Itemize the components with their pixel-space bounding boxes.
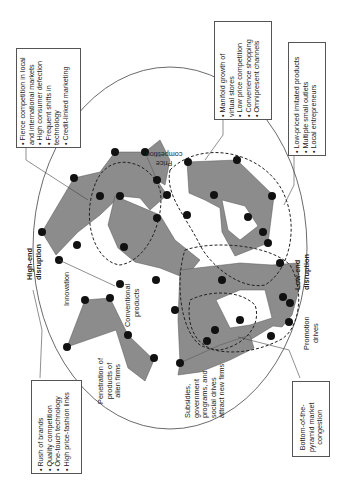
- label-promotion-drives: Promotion drives: [303, 316, 320, 350]
- callout-box-bottom-right: Bottom-of-the- pyramid market congestion: [292, 381, 330, 457]
- shaded-clusters: [42, 140, 300, 381]
- callout-box-top-right: • Low-priced imitated products • Multipl…: [288, 42, 326, 156]
- box-line: • Omnipresent channels: [253, 39, 262, 117]
- label-price-competition: Price competition: [144, 150, 184, 167]
- label-penetration-alien-firms: Penetration of products of alien firms: [97, 358, 123, 404]
- label-line: attract new firms: [218, 364, 227, 418]
- label-line: drives: [312, 316, 321, 350]
- label-line: Price: [144, 159, 184, 168]
- callout-box-bottom-left: • Rush of brands • Quality competition •…: [31, 380, 82, 474]
- label-subsidies: Subsidies, government programs, and soci…: [184, 364, 227, 418]
- label-innovation: Innovation: [63, 272, 72, 306]
- label-high-end-disruption: High-end disruption: [26, 244, 43, 280]
- label-line: Innovation: [63, 272, 72, 306]
- callout-box-top-left: • Fierce competition in local and intern…: [16, 48, 81, 148]
- label-low-end-disruption: Low-end disruption: [294, 254, 311, 290]
- box-line: congestion: [316, 402, 325, 452]
- box-line: • Local entrepreneurs: [310, 57, 319, 153]
- label-line: alien firms: [114, 358, 123, 404]
- box-line: • High price-fashion links: [63, 392, 72, 471]
- callout-box-top-middle: • Manifold growth of virtual stores • Lo…: [214, 21, 272, 120]
- label-conventional-products: Conventional products: [124, 284, 141, 327]
- label-line: disruption: [35, 244, 44, 280]
- label-line: products: [133, 284, 142, 327]
- label-line: disruption: [303, 254, 312, 290]
- box-line: • Credit-linked marketing: [62, 57, 71, 145]
- label-line: competition: [144, 150, 184, 159]
